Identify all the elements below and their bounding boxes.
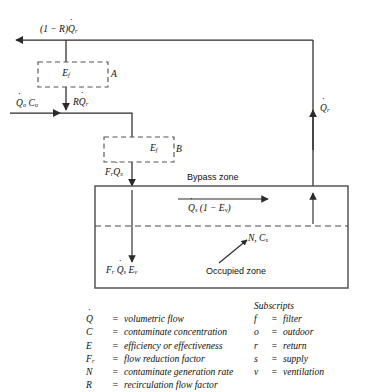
legend-definition: volumetric flow (124, 313, 184, 324)
legend-equals: = (112, 313, 124, 324)
legend-equals: = (271, 313, 283, 324)
legend-equals: = (112, 340, 124, 351)
legend-right-column: Subscripts f = filter o = outdoor r = re… (254, 300, 324, 379)
legend-symbol: s (254, 353, 271, 364)
legend-symbol: E (86, 340, 112, 351)
legend-equals: = (271, 366, 283, 377)
legend-definition: contaminate generation rate (124, 366, 233, 377)
legend-row: o = outdoor (254, 326, 324, 339)
legend-row: Q = volumetric flow (86, 313, 233, 326)
contaminant-generation-arrow (219, 240, 247, 263)
legend-definition: flow reduction factor (124, 353, 205, 364)
legend-left-column: Q = volumetric flow C = contaminate conc… (86, 300, 233, 392)
legend-symbol: R (86, 379, 112, 390)
legend-symbol: f (254, 313, 271, 324)
legend-equals: = (112, 379, 124, 390)
label-exhaust-flow: (1 − R)Qr (40, 25, 77, 35)
legend-symbol: C (86, 326, 112, 337)
filter-a-symbol: Ef (62, 69, 70, 79)
label-occupied-zone-flow: Fr Qs Ev (106, 266, 137, 276)
legend-definition: supply (283, 353, 308, 364)
label-recirculated-air: RQr (73, 98, 88, 108)
legend-symbol: Fr (86, 353, 112, 364)
legend-row: N = contaminate generation rate (86, 366, 233, 379)
legend-subscripts-heading: Subscripts (254, 300, 324, 313)
legend-definition: efficiency or effectiveness (124, 340, 223, 351)
legend-row: r = return (254, 340, 324, 353)
legend-equals: = (271, 326, 283, 337)
legend-row: s = supply (254, 353, 324, 366)
label-outdoor-air: Qo Co (16, 99, 38, 109)
filter-box-a (38, 62, 108, 87)
legend-definition: recirculation flow factor (124, 379, 218, 390)
occupied-zone-label: Occupied zone (206, 266, 266, 276)
legend-equals: = (112, 366, 124, 377)
legend-definition: outdoor (283, 326, 313, 337)
legend-definition: return (283, 340, 307, 351)
legend-row: v = ventilation (254, 366, 324, 379)
legend-equals: = (271, 340, 283, 351)
legend-equals: = (112, 353, 124, 364)
legend-symbol: v (254, 366, 271, 377)
legend-symbol: N (86, 366, 112, 377)
legend-symbol: r (254, 340, 271, 351)
legend-definition: contaminate concentration (124, 326, 227, 337)
filter-a-tag: A (111, 69, 117, 79)
label-supply-to-room: FrQs (105, 168, 123, 178)
bypass-zone-label: Bypass zone (187, 172, 239, 182)
legend-row: f = filter (254, 313, 324, 326)
label-return-flow: Qr (320, 104, 329, 114)
filter-box-b (104, 137, 174, 162)
legend-row: C = contaminate concentration (86, 326, 233, 339)
label-bypass-flow: Qs (1 − Ev) (188, 204, 231, 214)
filter-b-tag: B (176, 144, 182, 154)
legend-definition: filter (283, 313, 302, 324)
legend-row: E = efficiency or effectiveness (86, 340, 233, 353)
legend-row: R = recirculation flow factor (86, 379, 233, 392)
legend-row: Fr = flow reduction factor (86, 353, 233, 366)
label-contaminant-generation: N, Cs (248, 234, 268, 244)
legend-symbol: o (254, 326, 271, 337)
legend-definition: ventilation (283, 366, 324, 377)
mixed-air-duct (60, 113, 132, 137)
legend-symbol: Q (86, 313, 112, 324)
filter-b-symbol: Ef (150, 144, 158, 154)
legend-equals: = (271, 353, 283, 364)
legend-equals: = (112, 326, 124, 337)
exhaust-flow-text: (1 − R)Qr (40, 24, 77, 34)
